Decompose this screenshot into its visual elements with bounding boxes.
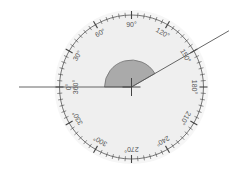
protractor-diagram: 0°360°30°60°90°120°150°180°210°240°270°3… [0,0,243,175]
angle-label: 90° [126,21,137,28]
angle-label: 180° [191,80,198,95]
protractor-svg: 0°360°30°60°90°120°150°180°210°240°270°3… [0,0,243,175]
angle-label: 270° [124,146,139,153]
